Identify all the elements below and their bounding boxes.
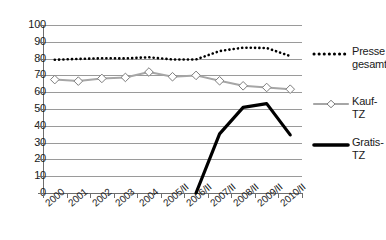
plot-area <box>43 25 302 193</box>
y-axis-tick <box>38 143 43 144</box>
y-axis-tick-label: 100 <box>12 19 46 29</box>
gridline <box>43 159 302 160</box>
x-axis-tick <box>43 193 44 198</box>
y-axis-tick-label: 90 <box>12 36 46 46</box>
y-axis-tick-label: 50 <box>12 103 46 113</box>
y-axis-tick <box>38 42 43 43</box>
y-axis-tick-label: 20 <box>12 153 46 163</box>
x-axis-tick <box>161 193 162 198</box>
legend-label: gesamt <box>352 58 386 70</box>
gridline <box>43 109 302 110</box>
y-axis-tick-label: 30 <box>12 137 46 147</box>
chart-container: 1009080706050403020100 20002001200220032… <box>0 0 386 240</box>
y-axis-tick <box>38 25 43 26</box>
gridline <box>43 59 302 60</box>
gridline <box>43 143 302 144</box>
legend-label: TZ <box>352 108 386 120</box>
legend-dotted-line-sample <box>312 46 350 58</box>
y-axis-tick-label: 70 <box>12 69 46 79</box>
x-axis-tick <box>90 193 91 198</box>
y-axis-tick-label: 60 <box>12 86 46 96</box>
y-axis-tick <box>38 92 43 93</box>
y-axis-tick <box>38 126 43 127</box>
x-axis-tick <box>137 193 138 198</box>
legend-black-thick-line-sample <box>312 137 350 149</box>
gridline <box>43 126 302 127</box>
gridline <box>43 25 302 26</box>
legend-label: TZ <box>352 149 386 161</box>
gridline <box>43 42 302 43</box>
y-axis-tick <box>38 75 43 76</box>
y-axis-tick <box>38 59 43 60</box>
y-axis-tick <box>38 159 43 160</box>
y-axis-tick-label: 10 <box>12 170 46 180</box>
gridline <box>43 92 302 93</box>
legend-gray-diamond-line-sample <box>312 96 350 108</box>
y-axis-tick <box>38 109 43 110</box>
y-axis-tick <box>38 176 43 177</box>
legend-label: Presse <box>352 45 386 57</box>
y-axis-tick-label: 40 <box>12 120 46 130</box>
legend-label: Gratis- <box>352 136 386 148</box>
gridline <box>43 75 302 76</box>
y-axis-tick-label: 80 <box>12 53 46 63</box>
y-axis-tick-label: 0 <box>12 187 46 197</box>
legend-label: Kauf- <box>352 95 386 107</box>
gridline <box>43 176 302 177</box>
